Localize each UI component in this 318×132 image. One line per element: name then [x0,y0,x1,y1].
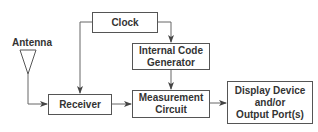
receiver-box: Receiver [48,94,112,115]
receiver-label: Receiver [59,99,101,111]
edge-clock-receiver [80,22,92,93]
antenna-label: Antenna [12,37,52,48]
measurement-label-line2: Circuit [155,104,187,116]
clock-box: Clock [92,12,158,33]
display-label-line1: Display Device [235,85,306,97]
clock-label: Clock [111,17,138,29]
antenna-icon [20,50,36,74]
code-generator-label-line1: Internal Code [139,45,203,57]
display-label-line2: and/or [255,97,286,109]
measurement-circuit-box: Measurement Circuit [132,90,210,118]
display-device-box: Display Device and/or Output Port(s) [227,81,313,124]
edge-antenna-receiver [28,74,47,104]
code-generator-box: Internal Code Generator [132,43,210,70]
measurement-label-line1: Measurement [139,92,203,104]
code-generator-label-line2: Generator [147,57,195,69]
edge-clock-codegen [158,22,171,42]
display-label-line3: Output Port(s) [236,109,304,121]
